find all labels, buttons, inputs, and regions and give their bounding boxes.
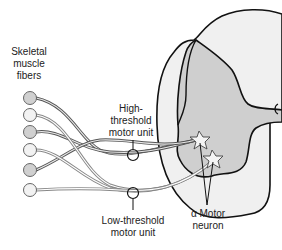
label-alpha-motor-neuron: α Motor neuron bbox=[180, 208, 236, 232]
label-skeletal-muscle-fibers: Skeletal muscle fibers bbox=[4, 46, 54, 82]
muscle-fibers bbox=[24, 92, 37, 197]
label-high-threshold-motor-unit: High- threshold motor unit bbox=[96, 103, 166, 139]
label-low-threshold-motor-unit: Low-threshold motor unit bbox=[94, 215, 172, 239]
